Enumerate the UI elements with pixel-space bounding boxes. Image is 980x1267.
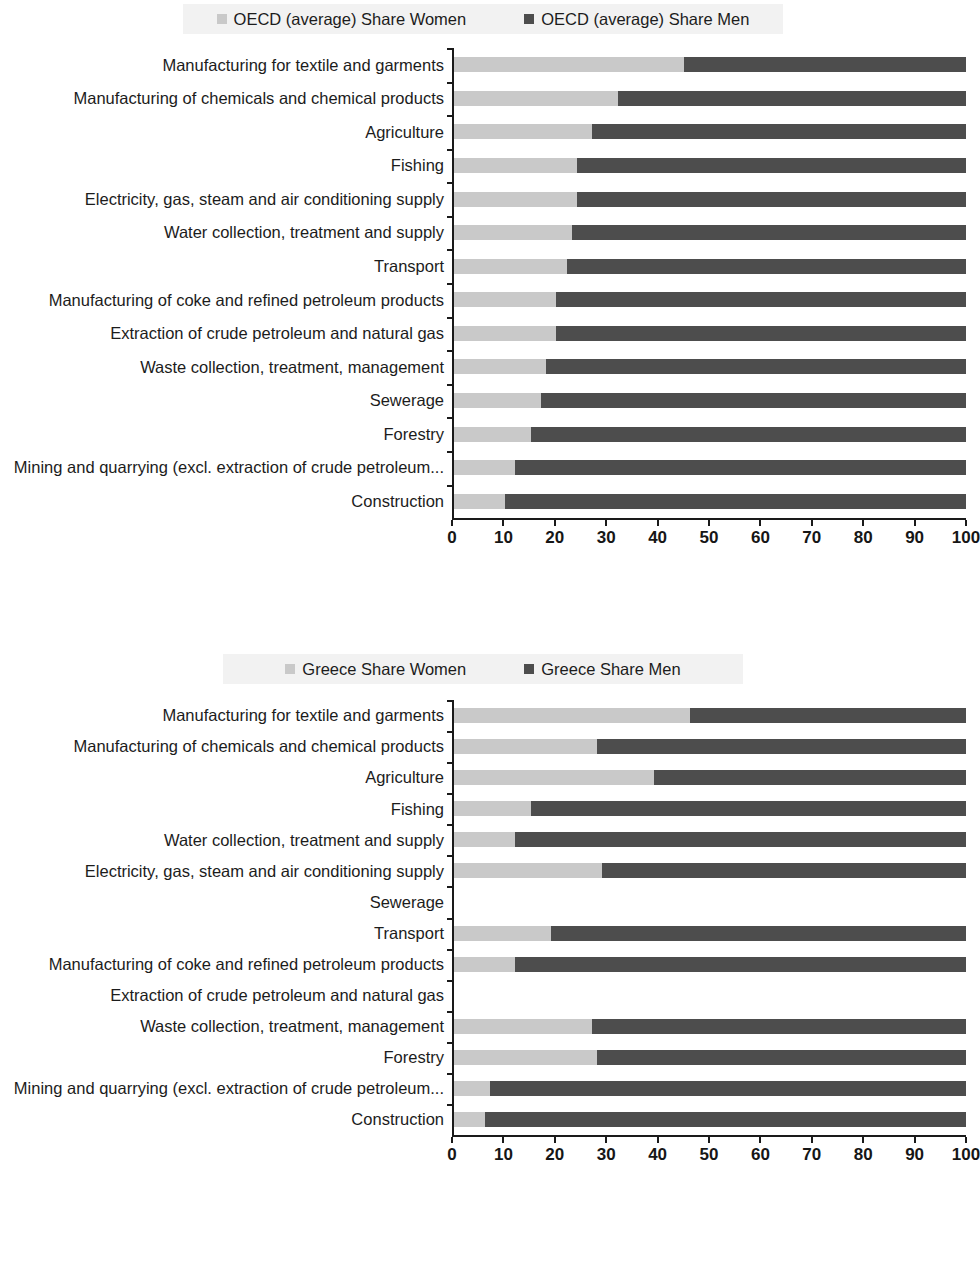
bar-segment-men	[556, 292, 966, 307]
value-axis-oecd: 0102030405060708090100	[452, 518, 966, 550]
stacked-bar	[454, 460, 966, 475]
legend-oecd: OECD (average) Share Women OECD (average…	[183, 4, 783, 34]
axis-tick-label: 10	[494, 528, 513, 548]
bar-segment-men	[577, 192, 966, 207]
bar-row	[454, 182, 966, 216]
bar-row	[454, 731, 966, 762]
stacked-bar	[454, 393, 966, 408]
category-label: Manufacturing of chemicals and chemical …	[0, 82, 444, 116]
category-tick	[447, 216, 454, 218]
legend-swatch-men-icon	[524, 14, 534, 24]
bar-row	[454, 283, 966, 317]
axis-tick-label: 60	[751, 1145, 770, 1165]
category-label: Waste collection, treatment, management	[0, 350, 444, 384]
stacked-bar	[454, 957, 966, 972]
chart-oecd-average: OECD (average) Share Women OECD (average…	[0, 0, 966, 550]
bar-row	[454, 350, 966, 384]
category-tick	[447, 949, 454, 951]
category-tick	[447, 980, 454, 982]
bar-row	[454, 886, 966, 917]
bar-segment-women	[454, 91, 618, 106]
stacked-bar	[454, 895, 966, 910]
axis-tick-label: 80	[854, 528, 873, 548]
bar-segment-men	[505, 494, 966, 509]
bar-segment-women	[454, 393, 541, 408]
bar-segment-men	[541, 393, 966, 408]
stacked-bar	[454, 158, 966, 173]
stacked-bar	[454, 1050, 966, 1065]
category-tick	[447, 182, 454, 184]
category-label: Fishing	[0, 793, 444, 824]
stacked-bar	[454, 988, 966, 1003]
bar-segment-women	[454, 124, 592, 139]
legend-label-women: OECD (average) Share Women	[234, 10, 467, 29]
stacked-bar	[454, 1112, 966, 1127]
stacked-bar	[454, 292, 966, 307]
bars-container-oecd	[452, 48, 966, 518]
legend-entry-women: OECD (average) Share Women	[217, 10, 467, 29]
bar-row	[454, 82, 966, 116]
bar-segment-men	[577, 158, 966, 173]
stacked-bar	[454, 708, 966, 723]
bar-row	[454, 980, 966, 1011]
category-label: Sewerage	[0, 886, 444, 917]
axis-tick-label: 60	[751, 528, 770, 548]
bar-row	[454, 918, 966, 949]
bars-container-greece	[452, 700, 966, 1135]
bar-segment-men	[684, 57, 966, 72]
bar-row	[454, 115, 966, 149]
bar-segment-men	[567, 259, 966, 274]
bar-segment-men	[592, 1019, 966, 1034]
category-label: Mining and quarrying (excl. extraction o…	[0, 451, 444, 485]
category-tick	[447, 762, 454, 764]
bar-segment-women	[454, 770, 654, 785]
category-label: Sewerage	[0, 384, 444, 418]
category-label: Extraction of crude petroleum and natura…	[0, 317, 444, 351]
bar-segment-men	[654, 770, 966, 785]
category-label: Forestry	[0, 417, 444, 451]
bar-row	[454, 1073, 966, 1104]
axis-tick-label: 50	[700, 1145, 719, 1165]
bar-row	[454, 793, 966, 824]
category-tick	[447, 115, 454, 117]
axis-tick-label: 80	[854, 1145, 873, 1165]
stacked-bar	[454, 1081, 966, 1096]
bar-row	[454, 451, 966, 485]
category-tick	[447, 451, 454, 453]
axis-tick-label: 10	[494, 1145, 513, 1165]
axis-tick-label: 0	[447, 1145, 456, 1165]
category-tick	[447, 1011, 454, 1013]
bar-segment-men	[515, 957, 966, 972]
category-axis-oecd: Manufacturing for textile and garmentsMa…	[0, 48, 452, 518]
bar-row	[454, 249, 966, 283]
legend-swatch-women-icon	[217, 14, 227, 24]
bar-segment-women	[454, 1081, 490, 1096]
bar-segment-women	[454, 460, 515, 475]
stacked-bar	[454, 124, 966, 139]
bar-segment-women	[454, 708, 690, 723]
bar-row	[454, 949, 966, 980]
stacked-bar	[454, 259, 966, 274]
axis-tick-label: 90	[905, 1145, 924, 1165]
axis-tick-label: 20	[545, 528, 564, 548]
axis-tick-label: 30	[597, 528, 616, 548]
legend-swatch-men-icon	[524, 664, 534, 674]
axis-tick-labels: 0102030405060708090100	[452, 526, 966, 550]
bar-segment-men	[551, 926, 966, 941]
axis-tick-label: 70	[802, 1145, 821, 1165]
bar-segment-men	[546, 359, 966, 374]
category-tick	[447, 317, 454, 319]
category-label: Manufacturing for textile and garments	[0, 48, 444, 82]
stacked-bar	[454, 326, 966, 341]
category-axis-greece: Manufacturing for textile and garmentsMa…	[0, 700, 452, 1135]
bar-segment-women	[454, 292, 556, 307]
stacked-bar	[454, 57, 966, 72]
category-label: Water collection, treatment and supply	[0, 216, 444, 250]
axis-tick-label: 50	[700, 528, 719, 548]
category-tick	[447, 918, 454, 920]
category-label: Construction	[0, 1104, 444, 1135]
value-axis-greece: 0102030405060708090100	[452, 1135, 966, 1167]
category-tick	[447, 149, 454, 151]
bar-segment-men	[592, 124, 966, 139]
category-label: Forestry	[0, 1042, 444, 1073]
